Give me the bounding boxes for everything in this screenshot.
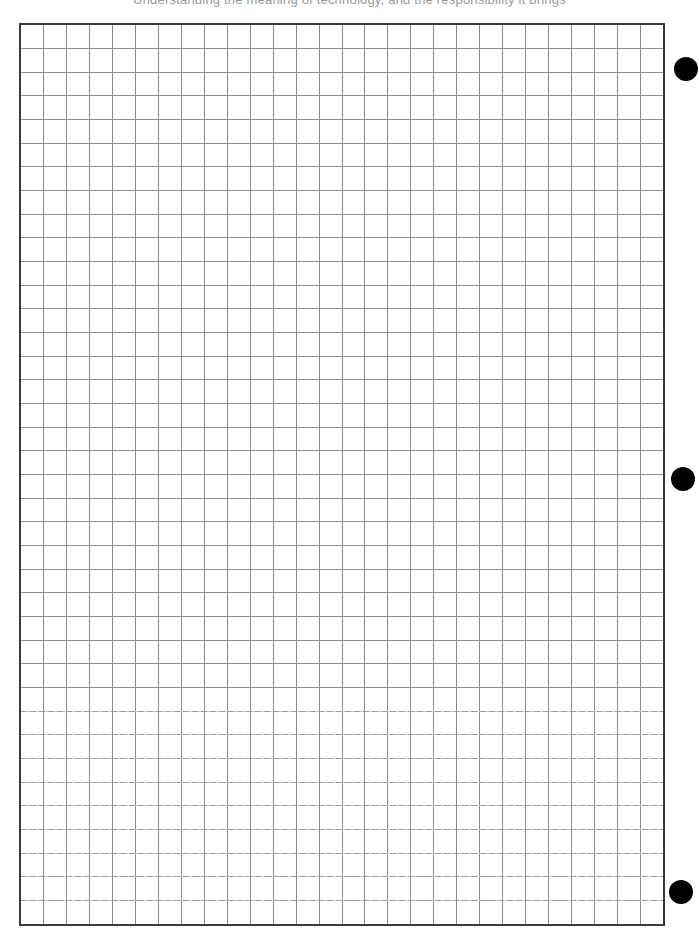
grid-row-line [21, 876, 663, 877]
grid-row-line [21, 663, 663, 664]
grid-row-line [21, 474, 663, 475]
punch-hole-top [674, 57, 698, 81]
punch-hole-bottom [669, 880, 693, 904]
grid-row-line [21, 95, 663, 96]
grid-row-line [21, 545, 663, 546]
grid-row-line [21, 758, 663, 759]
page-header: Understanding the meaning of technology,… [0, 0, 699, 10]
grid-row-line [21, 72, 663, 73]
grid-row-line [21, 261, 663, 262]
header-text: Understanding the meaning of technology,… [0, 0, 699, 7]
grid-row-line [21, 237, 663, 238]
grid [21, 25, 663, 924]
punch-hole-middle [671, 467, 695, 491]
grid-row-line [21, 308, 663, 309]
grid-row-line [21, 782, 663, 783]
grid-row-line [21, 285, 663, 286]
grid-row-line [21, 734, 663, 735]
grid-row-line [21, 214, 663, 215]
grid-row-line [21, 190, 663, 191]
grid-row-line [21, 711, 663, 712]
grid-row-line [21, 592, 663, 593]
grid-row-line [21, 498, 663, 499]
grid-row-line [21, 356, 663, 357]
grid-row-line [21, 119, 663, 120]
grid-row-line [21, 521, 663, 522]
grid-row-line [21, 900, 663, 901]
grid-row-line [21, 427, 663, 428]
grid-row-line [21, 616, 663, 617]
grid-row-line [21, 640, 663, 641]
grid-row-line [21, 450, 663, 451]
grid-row-line [21, 853, 663, 854]
grid-row-line [21, 143, 663, 144]
grid-row-line [21, 403, 663, 404]
grid-row-line [21, 805, 663, 806]
grid-row-line [21, 332, 663, 333]
grid-row-line [21, 166, 663, 167]
grid-row-line [21, 569, 663, 570]
grid-row-line [21, 379, 663, 380]
grid-row-line [21, 829, 663, 830]
grid-row-line [21, 687, 663, 688]
grid-row-line [21, 48, 663, 49]
graph-paper-sheet [19, 23, 665, 926]
